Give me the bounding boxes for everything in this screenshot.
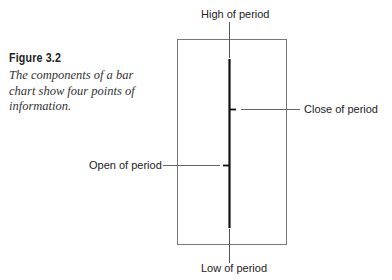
- label-low: Low of period: [201, 262, 267, 274]
- label-close: Close of period: [304, 103, 378, 115]
- bar-chart-diagram: [0, 0, 392, 280]
- chart-frame: [178, 40, 287, 245]
- label-high: High of period: [201, 8, 270, 20]
- label-open: Open of period: [89, 159, 162, 171]
